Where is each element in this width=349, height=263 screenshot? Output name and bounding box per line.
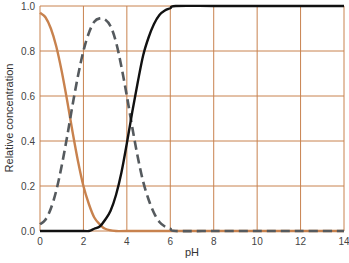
x-tick-label: 12 bbox=[295, 236, 307, 247]
y-tick-label: 0.6 bbox=[21, 91, 35, 102]
x-tick-label: 4 bbox=[124, 236, 130, 247]
y-tick-label: 0.4 bbox=[21, 136, 35, 147]
x-tick-label: 0 bbox=[37, 236, 43, 247]
x-tick-label: 2 bbox=[81, 236, 87, 247]
y-tick-label: 0.0 bbox=[21, 226, 35, 237]
chart: 02468101214 0.00.20.40.60.81.0 pH Relati… bbox=[0, 0, 349, 263]
y-tick-label: 1.0 bbox=[21, 1, 35, 12]
x-tick-label: 14 bbox=[338, 236, 349, 247]
y-axis-label: Relative concentration bbox=[3, 64, 15, 173]
x-axis-label: pH bbox=[185, 246, 199, 258]
y-tick-label: 0.8 bbox=[21, 46, 35, 57]
y-axis-ticks: 0.00.20.40.60.81.0 bbox=[21, 1, 35, 237]
y-tick-label: 0.2 bbox=[21, 181, 35, 192]
series-line-gray-dashed bbox=[40, 18, 344, 231]
data-series bbox=[40, 6, 344, 231]
x-tick-label: 8 bbox=[211, 236, 217, 247]
x-tick-label: 10 bbox=[252, 236, 264, 247]
x-tick-label: 6 bbox=[168, 236, 174, 247]
